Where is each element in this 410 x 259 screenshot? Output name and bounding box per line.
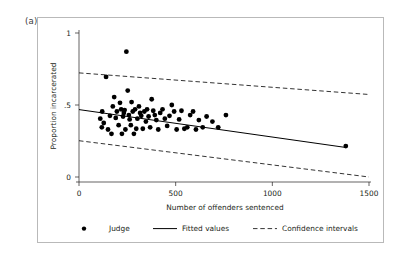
data-point xyxy=(99,125,104,130)
data-point xyxy=(127,117,132,122)
data-point xyxy=(113,116,118,121)
figure-panel-a: (a) 0.51 050010001500 Proportion incarce… xyxy=(0,0,410,259)
y-tick-label: .5 xyxy=(64,101,71,110)
data-point xyxy=(196,118,201,123)
data-point xyxy=(177,117,182,122)
data-point xyxy=(112,95,117,100)
data-point xyxy=(114,109,119,114)
data-point xyxy=(194,127,199,132)
confidence-interval-line xyxy=(79,141,369,177)
y-axis-ticks: 0.51 xyxy=(64,29,79,182)
scatter-plot: 0.51 050010001500 Proportion incarcerate… xyxy=(0,0,410,259)
data-point xyxy=(108,113,113,118)
data-point xyxy=(145,107,150,112)
data-point xyxy=(128,123,133,128)
data-point xyxy=(172,109,177,114)
data-point xyxy=(106,127,111,132)
data-point xyxy=(129,100,134,105)
data-point xyxy=(148,125,153,130)
data-point xyxy=(116,123,121,128)
data-point xyxy=(224,113,229,118)
data-point xyxy=(200,125,205,130)
data-point xyxy=(120,131,125,136)
data-point xyxy=(160,107,165,112)
data-point xyxy=(149,97,154,102)
legend: JudgeFitted valuesConfidence intervals xyxy=(82,224,358,233)
data-point xyxy=(118,100,123,105)
data-point xyxy=(151,108,156,113)
data-point xyxy=(132,131,137,136)
data-point xyxy=(104,75,109,80)
data-point xyxy=(154,118,159,123)
data-point xyxy=(134,126,139,131)
x-tick-label: 500 xyxy=(169,189,183,198)
data-point xyxy=(101,121,106,126)
data-point xyxy=(110,104,115,109)
data-point xyxy=(174,127,179,132)
legend-label-judge: Judge xyxy=(108,224,130,233)
fitted-line xyxy=(79,110,346,148)
data-point xyxy=(210,119,215,124)
data-point xyxy=(124,49,129,54)
legend-label-fitted: Fitted values xyxy=(182,224,229,233)
x-axis-ticks: 050010001500 xyxy=(77,182,379,198)
data-point xyxy=(343,144,348,149)
confidence-interval-line xyxy=(79,73,369,95)
x-tick-label: 1000 xyxy=(263,189,282,198)
data-point xyxy=(165,123,170,128)
data-point xyxy=(122,108,127,113)
fitted-values-line xyxy=(79,110,346,148)
data-point xyxy=(100,109,105,114)
data-point xyxy=(156,127,161,132)
data-point xyxy=(216,125,221,130)
legend-marker-judge xyxy=(82,226,86,230)
data-point xyxy=(167,113,172,118)
x-tick-label: 1500 xyxy=(360,189,379,198)
data-point xyxy=(204,114,209,119)
confidence-interval-lines xyxy=(79,73,369,177)
data-point xyxy=(139,113,144,118)
data-point xyxy=(162,116,167,121)
data-point xyxy=(146,114,151,119)
legend-label-ci: Confidence intervals xyxy=(282,224,358,233)
data-point xyxy=(191,109,196,114)
data-point xyxy=(109,131,114,136)
x-axis-label: Number of offenders sentenced xyxy=(166,203,284,212)
data-point xyxy=(133,107,138,112)
data-point xyxy=(169,103,174,108)
data-point xyxy=(185,125,190,130)
axes xyxy=(76,30,371,182)
data-point xyxy=(137,104,142,109)
y-tick-label: 1 xyxy=(66,29,71,38)
y-tick-label: 0 xyxy=(66,173,71,182)
data-point xyxy=(179,108,184,113)
data-point xyxy=(98,116,103,121)
data-point xyxy=(152,113,157,118)
data-point xyxy=(125,88,130,93)
data-point xyxy=(135,116,140,121)
x-tick-label: 0 xyxy=(77,189,82,198)
data-point xyxy=(123,127,128,132)
data-point xyxy=(126,113,131,118)
data-point xyxy=(140,126,145,131)
judge-data-points xyxy=(98,49,348,148)
y-axis-label: Proportion incarcerated xyxy=(49,62,58,149)
data-point xyxy=(143,119,148,124)
